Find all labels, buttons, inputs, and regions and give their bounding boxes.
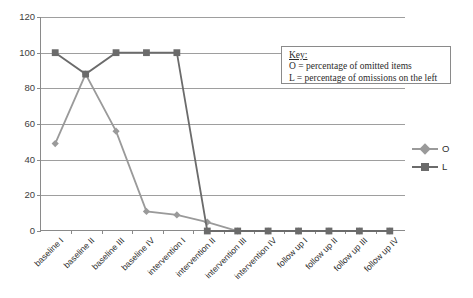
y-tick-label: 0 (30, 226, 35, 236)
x-tick-mark (254, 230, 255, 234)
x-tick-mark (102, 230, 103, 234)
x-tick-mark (71, 230, 72, 234)
chart-legend: O L (412, 140, 468, 176)
key-box: Key: O = percentage of omitted items L =… (281, 46, 451, 84)
legend-label-l: L (442, 162, 447, 172)
y-gridline (41, 124, 405, 125)
x-tick-mark (132, 230, 133, 234)
y-tick-mark (37, 124, 41, 125)
x-tick-mark (345, 230, 346, 234)
legend-swatch-l-icon (412, 161, 438, 173)
x-tick-mark (376, 230, 377, 234)
y-tick-label: 40 (24, 155, 35, 165)
y-tick-mark (37, 88, 41, 89)
y-tick-mark (37, 53, 41, 54)
y-tick-label: 120 (19, 12, 35, 22)
y-tick-mark (37, 17, 41, 18)
key-line-l: L = percentage of omissions on the left (289, 73, 445, 85)
legend-swatch-o-icon (412, 143, 438, 155)
x-tick-mark (315, 230, 316, 234)
y-tick-label: 20 (24, 191, 35, 201)
x-axis-label: baseline I (33, 236, 65, 268)
y-gridline (41, 88, 405, 89)
y-tick-label: 80 (24, 84, 35, 94)
key-line-o: O = percentage of omitted items (289, 61, 445, 73)
chart-screenshot: 020406080100120 baseline Ibaseline IIbas… (0, 0, 473, 298)
legend-item-l: L (412, 158, 468, 176)
y-gridline (41, 160, 405, 161)
y-tick-mark (37, 231, 41, 232)
x-tick-mark (284, 230, 285, 234)
y-gridline (41, 17, 405, 18)
legend-label-o: O (442, 144, 449, 154)
y-gridline (41, 195, 405, 196)
y-tick-label: 60 (24, 119, 35, 129)
x-tick-mark (224, 230, 225, 234)
legend-item-o: O (412, 140, 468, 158)
x-tick-mark (193, 230, 194, 234)
y-tick-mark (37, 195, 41, 196)
key-title: Key: (289, 50, 445, 61)
x-tick-mark (163, 230, 164, 234)
y-tick-label: 100 (19, 48, 35, 58)
y-tick-mark (37, 160, 41, 161)
